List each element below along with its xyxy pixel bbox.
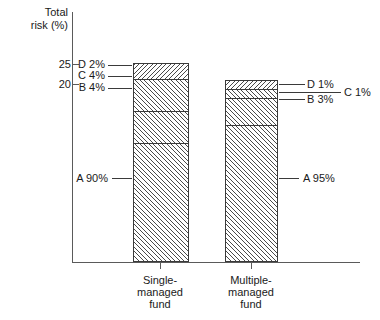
bar-multiple-managed-fund	[225, 80, 278, 262]
bar1-segment-c	[133, 79, 189, 111]
y-axis-title: Total risk (%)	[14, 6, 68, 32]
bar2-leader-b	[279, 99, 305, 100]
bar1-leader-a	[112, 178, 132, 179]
x-axis	[72, 262, 360, 263]
bar1-segment-d	[133, 63, 189, 79]
bar2-segment-c	[225, 89, 278, 98]
x-label-multiple-managed-fund: Multiple- managed fund	[211, 274, 291, 310]
bar-single-managed-fund	[133, 63, 189, 262]
bar1-label-b: B 4%	[60, 82, 105, 93]
x-tick-single-managed-fund	[160, 263, 161, 269]
x-tick-multiple-managed-fund	[251, 263, 252, 269]
bar2-label-c: C 1%	[344, 87, 371, 98]
bar2-leader-a	[279, 178, 299, 179]
bar1-label-c: C 4%	[60, 70, 105, 81]
bar2-segment-b	[225, 98, 278, 125]
bar1-label-a: A 90%	[56, 173, 108, 184]
bar2-segment-d	[225, 80, 278, 89]
risk-chart: Total risk (%) 25 20 D 2% C 4% B 4% A 90…	[0, 0, 380, 320]
bar2-leader-d	[279, 84, 305, 85]
bar2-segment-a	[225, 125, 278, 262]
bar2-label-b: B 3%	[307, 94, 333, 105]
bar1-segment-b	[133, 111, 189, 143]
y-axis-title-line2: risk (%)	[14, 19, 68, 32]
bar1-segment-a	[133, 143, 189, 262]
bar1-leader-d	[108, 65, 132, 66]
y-axis	[72, 12, 73, 263]
bar2-label-d: D 1%	[307, 79, 334, 90]
bar1-leader-b	[108, 88, 132, 89]
x-label-single-managed-fund: Single- managed fund	[120, 274, 200, 310]
y-axis-title-line1: Total	[14, 6, 68, 19]
bar1-leader-c	[108, 76, 132, 77]
bar2-label-a: A 95%	[303, 173, 335, 184]
